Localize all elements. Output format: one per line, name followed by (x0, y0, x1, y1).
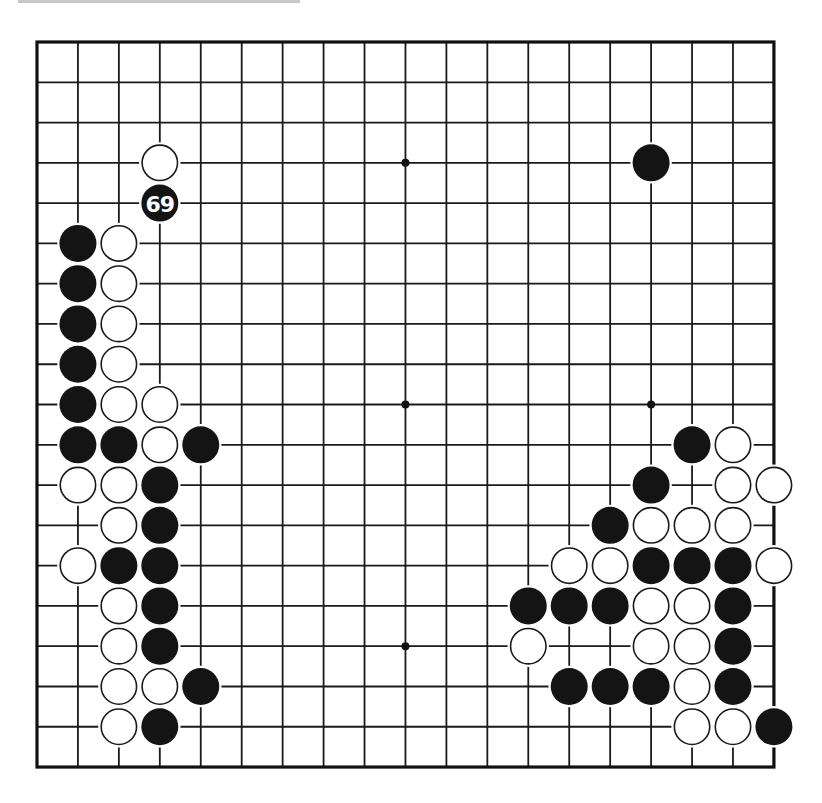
empty-intersection[interactable] (430, 469, 462, 501)
empty-intersection[interactable] (185, 469, 217, 501)
empty-intersection[interactable] (512, 147, 544, 179)
empty-intersection[interactable] (471, 66, 503, 98)
empty-intersection[interactable] (226, 26, 258, 58)
empty-intersection[interactable] (308, 107, 340, 139)
empty-intersection[interactable] (717, 751, 749, 783)
empty-intersection[interactable] (553, 268, 585, 300)
empty-intersection[interactable] (471, 389, 503, 421)
go-board[interactable]: 69 (0, 0, 822, 803)
empty-intersection[interactable] (349, 751, 381, 783)
empty-intersection[interactable] (349, 348, 381, 380)
empty-intersection[interactable] (21, 107, 53, 139)
empty-intersection[interactable] (103, 66, 135, 98)
empty-intersection[interactable] (349, 227, 381, 259)
empty-intersection[interactable] (553, 147, 585, 179)
empty-intersection[interactable] (62, 630, 94, 662)
empty-intersection[interactable] (635, 751, 667, 783)
empty-intersection[interactable] (553, 429, 585, 461)
empty-intersection[interactable] (430, 429, 462, 461)
empty-intersection[interactable] (267, 670, 299, 702)
empty-intersection[interactable] (62, 66, 94, 98)
empty-intersection[interactable] (226, 66, 258, 98)
empty-intersection[interactable] (389, 348, 421, 380)
empty-intersection[interactable] (430, 268, 462, 300)
empty-intersection[interactable] (308, 308, 340, 340)
empty-intersection[interactable] (185, 751, 217, 783)
empty-intersection[interactable] (471, 107, 503, 139)
empty-intersection[interactable] (553, 308, 585, 340)
empty-intersection[interactable] (267, 66, 299, 98)
empty-intersection[interactable] (185, 389, 217, 421)
empty-intersection[interactable] (185, 147, 217, 179)
empty-intersection[interactable] (553, 630, 585, 662)
empty-intersection[interactable] (308, 550, 340, 582)
empty-intersection[interactable] (144, 308, 176, 340)
empty-intersection[interactable] (512, 429, 544, 461)
empty-intersection[interactable] (308, 630, 340, 662)
empty-intersection[interactable] (471, 550, 503, 582)
empty-intersection[interactable] (62, 711, 94, 743)
empty-intersection[interactable] (594, 348, 626, 380)
empty-intersection[interactable] (389, 670, 421, 702)
empty-intersection[interactable] (62, 147, 94, 179)
empty-intersection[interactable] (389, 550, 421, 582)
empty-intersection[interactable] (430, 590, 462, 622)
empty-intersection[interactable] (185, 187, 217, 219)
empty-intersection[interactable] (226, 429, 258, 461)
empty-intersection[interactable] (349, 147, 381, 179)
empty-intersection[interactable] (389, 711, 421, 743)
empty-intersection[interactable] (758, 268, 790, 300)
empty-intersection[interactable] (185, 550, 217, 582)
empty-intersection[interactable] (103, 107, 135, 139)
empty-intersection[interactable] (349, 107, 381, 139)
empty-intersection[interactable] (758, 66, 790, 98)
empty-intersection[interactable] (553, 509, 585, 541)
empty-intersection[interactable] (144, 107, 176, 139)
empty-intersection[interactable] (185, 348, 217, 380)
empty-intersection[interactable] (553, 26, 585, 58)
empty-intersection[interactable] (553, 107, 585, 139)
empty-intersection[interactable] (676, 187, 708, 219)
empty-intersection[interactable] (185, 66, 217, 98)
empty-intersection[interactable] (676, 268, 708, 300)
empty-intersection[interactable] (553, 348, 585, 380)
empty-intersection[interactable] (226, 308, 258, 340)
empty-intersection[interactable] (758, 590, 790, 622)
empty-intersection[interactable] (185, 107, 217, 139)
empty-intersection[interactable] (185, 509, 217, 541)
empty-intersection[interactable] (594, 187, 626, 219)
empty-intersection[interactable] (471, 711, 503, 743)
empty-intersection[interactable] (389, 469, 421, 501)
empty-intersection[interactable] (349, 308, 381, 340)
empty-intersection[interactable] (635, 389, 667, 421)
empty-intersection[interactable] (471, 751, 503, 783)
empty-intersection[interactable] (103, 26, 135, 58)
empty-intersection[interactable] (349, 66, 381, 98)
empty-intersection[interactable] (308, 147, 340, 179)
empty-intersection[interactable] (21, 509, 53, 541)
empty-intersection[interactable] (389, 630, 421, 662)
empty-intersection[interactable] (267, 711, 299, 743)
empty-intersection[interactable] (635, 429, 667, 461)
empty-intersection[interactable] (758, 147, 790, 179)
empty-intersection[interactable] (471, 429, 503, 461)
empty-intersection[interactable] (594, 308, 626, 340)
empty-intersection[interactable] (758, 308, 790, 340)
empty-intersection[interactable] (512, 751, 544, 783)
empty-intersection[interactable] (676, 348, 708, 380)
empty-intersection[interactable] (635, 308, 667, 340)
empty-intersection[interactable] (512, 389, 544, 421)
empty-intersection[interactable] (226, 590, 258, 622)
empty-intersection[interactable] (553, 469, 585, 501)
empty-intersection[interactable] (349, 630, 381, 662)
empty-intersection[interactable] (226, 227, 258, 259)
empty-intersection[interactable] (185, 268, 217, 300)
empty-intersection[interactable] (553, 187, 585, 219)
empty-intersection[interactable] (635, 66, 667, 98)
empty-intersection[interactable] (594, 66, 626, 98)
empty-intersection[interactable] (62, 751, 94, 783)
empty-intersection[interactable] (62, 670, 94, 702)
empty-intersection[interactable] (471, 227, 503, 259)
empty-intersection[interactable] (226, 751, 258, 783)
empty-intersection[interactable] (226, 107, 258, 139)
